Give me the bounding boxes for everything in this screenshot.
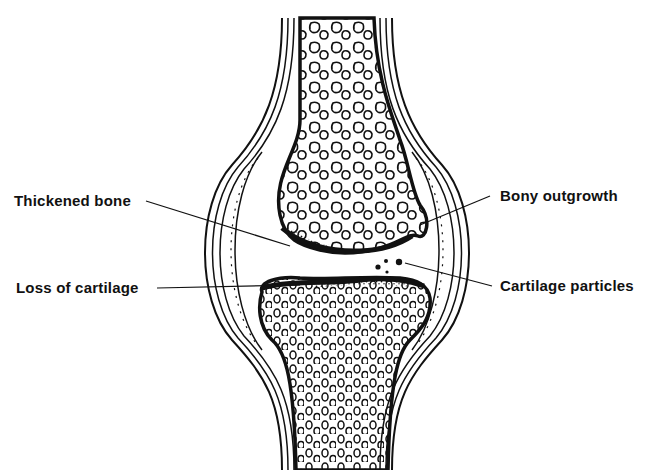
lower-bone (260, 277, 431, 470)
label-loss-of-cartilage: Loss of cartilage (16, 279, 139, 296)
label-thickened-bone: Thickened bone (14, 192, 131, 209)
joint-diagram: Thickened bone Loss of cartilage Bony ou… (0, 0, 660, 470)
label-bony-outgrowth: Bony outgrowth (500, 187, 618, 204)
label-cartilage-particles: Cartilage particles (500, 277, 634, 294)
cartilage-particles-dots (375, 259, 402, 274)
joint-illustration (0, 0, 660, 470)
